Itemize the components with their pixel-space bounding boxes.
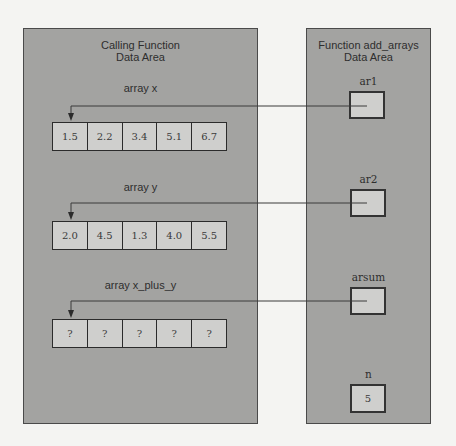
array-y-cell-2: 1.3 [123,222,158,249]
array-x-cell-3: 5.1 [157,123,192,150]
array-x-cell-2: 3.4 [123,123,158,150]
function-panel-title-line2: Data Area [307,51,430,63]
array-x-plus-y-cell-2: ? [123,320,158,347]
param-ar2-box [350,189,386,217]
array-y-cell-3: 4.0 [157,222,192,249]
array-y-cell-4: 5.5 [192,222,226,249]
function-panel-title-line1: Function add_arrays [307,39,430,51]
array-x-plus-y-cell-0: ? [53,320,88,347]
array-x-cell-4: 6.7 [192,123,226,150]
param-ar2-label: ar2 [306,173,431,185]
array-y-cell-0: 2.0 [53,222,88,249]
param-ar1-label: ar1 [306,75,431,87]
param-n-box: 5 [350,384,386,413]
array-x-plus-y-cell-4: ? [192,320,226,347]
param-arsum-box [350,287,386,315]
array-x-plus-y-label: array x_plus_y [23,279,258,291]
array-x-plus-y: ? ? ? ? ? [52,319,227,348]
calling-panel-title-line1: Calling Function [24,39,257,51]
calling-panel-title-line2: Data Area [24,51,257,63]
array-x-label: array x [23,82,258,94]
param-n-label: n [306,368,431,380]
diagram-stage: Calling Function Data Area array x 1.5 2… [0,0,456,446]
function-panel-title: Function add_arrays Data Area [307,39,430,63]
array-x-cell-1: 2.2 [88,123,123,150]
array-x-cell-0: 1.5 [53,123,88,150]
param-ar1-box [349,91,385,119]
calling-panel-title: Calling Function Data Area [24,39,257,63]
array-x-plus-y-cell-1: ? [88,320,123,347]
array-y-label: array y [23,181,258,193]
array-y-cell-1: 4.5 [88,222,123,249]
param-arsum-label: arsum [306,271,431,283]
array-y: 2.0 4.5 1.3 4.0 5.5 [52,221,227,250]
array-x: 1.5 2.2 3.4 5.1 6.7 [52,122,227,151]
function-panel: Function add_arrays Data Area [306,28,431,424]
array-x-plus-y-cell-3: ? [157,320,192,347]
